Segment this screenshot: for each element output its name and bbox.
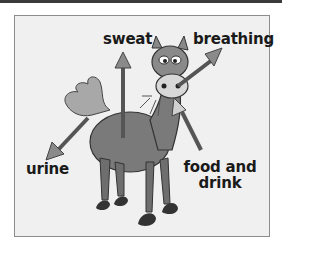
urine-arrow xyxy=(46,118,88,160)
label-sweat: sweat xyxy=(103,31,152,47)
label-food-line1: food and xyxy=(177,159,263,175)
label-food-and-drink: food and drink xyxy=(177,159,263,191)
label-food-line2: drink xyxy=(177,175,263,191)
label-breathing: breathing xyxy=(193,31,274,47)
horse-tail xyxy=(65,77,110,116)
label-urine: urine xyxy=(26,161,69,177)
